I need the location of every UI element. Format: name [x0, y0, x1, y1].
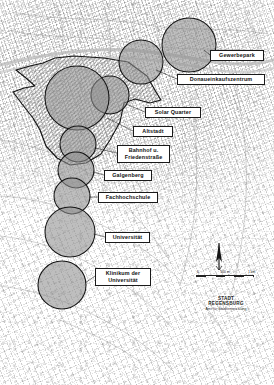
gewerbepark-circle: [162, 18, 216, 72]
map-label-gewerbepark[interactable]: Gewerbepark: [210, 50, 264, 61]
map-label-altstadt[interactable]: Altstadt: [133, 126, 173, 137]
universitaet-circle: [45, 207, 95, 257]
scale-bar-labels: 0 500 m 1 km: [196, 270, 254, 275]
map-label-galgenberg[interactable]: Galgenberg: [104, 170, 152, 181]
scale-bar: 0 500 m 1 km: [196, 270, 254, 277]
donaueinkaufszentrum-circle: [119, 40, 163, 84]
map-credit-subtitle: Amt für Stadtentwicklung: [200, 307, 252, 312]
map-label-klinikum-universitaet[interactable]: Klinikum der Universität: [95, 268, 151, 286]
map-credit: STADT REGENSBURG Amt für Stadtentwicklun…: [200, 296, 252, 311]
scale-tick-0: 0: [197, 270, 199, 274]
scale-tick-mid: 500 m: [220, 270, 229, 274]
map-label-universitaet[interactable]: Universität: [105, 232, 150, 243]
map-label-solar-quarter[interactable]: Solar Quarter: [145, 107, 201, 118]
map-credit-title: STADT REGENSBURG: [200, 296, 252, 307]
map-label-fachhochschule[interactable]: Fachhochschule: [98, 192, 158, 203]
scale-tick-max: 1 km: [248, 270, 255, 274]
klinikum-circle: [38, 261, 86, 309]
map-label-bahnhof-friedenstrasse[interactable]: Bahnhof u. Friedenstraße: [117, 145, 170, 163]
map-figure: Gewerbepark Donaueinkaufszentrum Solar Q…: [0, 0, 274, 385]
altstadt-circle: [45, 66, 109, 130]
map-label-donaueinkaufszentrum[interactable]: Donaueinkaufszentrum: [177, 74, 265, 85]
scale-bar-segments: [196, 275, 254, 277]
